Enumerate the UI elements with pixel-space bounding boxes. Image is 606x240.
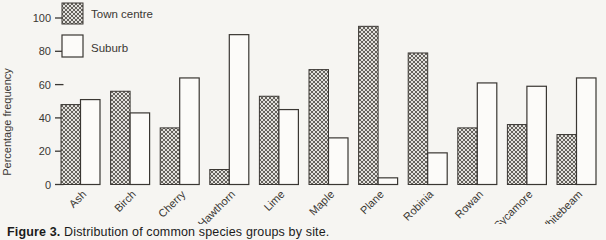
y-axis-title: Percentage frequency xyxy=(1,68,13,176)
bar-town-centre-sycamore xyxy=(507,125,527,185)
bar-suburb-sycamore xyxy=(527,86,547,184)
bar-town-centre-robinia xyxy=(408,53,428,185)
bar-town-centre-maple xyxy=(309,70,329,185)
bar-suburb-hawthorn xyxy=(229,35,249,185)
bar-suburb-lime xyxy=(279,110,299,185)
x-axis-label-plane: Plane xyxy=(358,188,386,216)
y-axis-tick-label: 80 xyxy=(39,45,51,57)
bar-suburb-maple xyxy=(329,138,349,185)
figure-caption-text: Distribution of common species groups by… xyxy=(60,225,329,239)
bar-town-centre-whitebeam xyxy=(557,135,577,185)
legend-swatch-suburb xyxy=(62,35,83,57)
bar-town-centre-hawthorn xyxy=(210,170,230,185)
legend-label-suburb: Suburb xyxy=(91,42,128,54)
bar-suburb-birch xyxy=(130,113,150,185)
y-axis-tick-label: 0 xyxy=(45,179,51,191)
x-axis-label-robinia: Robinia xyxy=(401,187,436,222)
bar-suburb-rowan xyxy=(477,83,497,185)
x-axis-label-maple: Maple xyxy=(307,188,337,218)
legend-label-town-centre: Town centre xyxy=(91,8,153,20)
bar-town-centre-ash xyxy=(61,105,81,185)
y-axis-tick-label: 40 xyxy=(39,112,51,124)
chart-root: 020406080100Percentage frequencyAshBirch… xyxy=(1,3,596,224)
bar-suburb-plane xyxy=(378,178,398,185)
bar-chart-canvas: 020406080100Percentage frequencyAshBirch… xyxy=(0,0,606,224)
bar-suburb-ash xyxy=(81,100,101,185)
bar-town-centre-cherry xyxy=(160,128,180,185)
x-axis-label-ash: Ash xyxy=(67,188,89,210)
bar-suburb-cherry xyxy=(180,78,200,185)
legend-swatch-town-centre xyxy=(62,3,83,24)
x-axis-label-rowan: Rowan xyxy=(453,188,486,221)
x-axis-label-birch: Birch xyxy=(112,188,138,214)
y-axis-tick-label: 100 xyxy=(33,12,51,24)
bar-suburb-robinia xyxy=(428,153,448,185)
y-axis-tick-label: 60 xyxy=(39,79,51,91)
bar-town-centre-plane xyxy=(359,26,379,184)
x-axis-label-lime: Lime xyxy=(261,188,286,213)
bar-town-centre-rowan xyxy=(458,128,478,185)
y-axis-tick-label: 20 xyxy=(39,145,51,157)
x-axis-label-hawthorn: Hawthorn xyxy=(195,188,237,224)
x-axis-label-sycamore: Sycamore xyxy=(491,188,535,224)
bar-suburb-whitebeam xyxy=(577,78,597,185)
figure-caption-label: Figure 3. xyxy=(7,225,60,239)
x-axis-label-whitebeam: Whitebeam xyxy=(537,188,585,224)
figure-3-bar-chart: 020406080100Percentage frequencyAshBirch… xyxy=(0,0,606,240)
bar-town-centre-lime xyxy=(259,96,279,184)
x-axis-label-cherry: Cherry xyxy=(156,188,188,220)
bar-town-centre-birch xyxy=(111,91,131,184)
figure-caption: Figure 3. Distribution of common species… xyxy=(7,225,329,239)
